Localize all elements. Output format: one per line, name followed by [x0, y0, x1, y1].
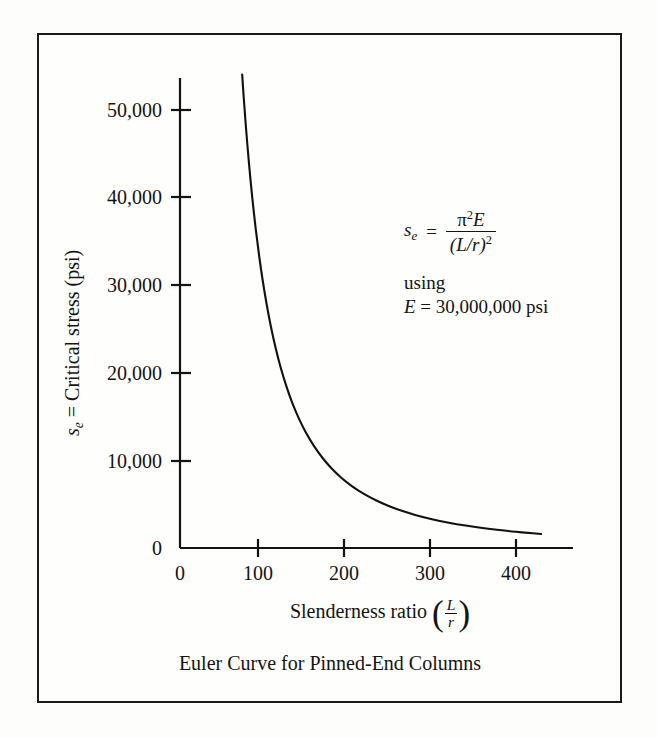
fraction-denominator-r: r	[446, 614, 456, 630]
y-axis-title-rest: = Critical stress (psi)	[61, 250, 83, 417]
using-label: using	[404, 272, 548, 294]
formula-denominator: (L/r)2	[446, 232, 496, 255]
formula-equals: =	[426, 221, 437, 243]
x-axis-title-ratio: ( L r )	[432, 597, 470, 630]
formula-line: se = π2E (L/r)2	[404, 208, 548, 255]
figure-caption: Euler Curve for Pinned-End Columns	[40, 652, 620, 675]
y-tick-label-10000: 10,000	[40, 450, 162, 473]
modulus-equals: =	[420, 296, 431, 317]
fraction-numerator-L: L	[445, 597, 458, 613]
formula-lhs: se	[404, 219, 417, 244]
x-tick-label-200: 200	[329, 562, 359, 585]
x-tick-label-100: 100	[243, 562, 273, 585]
y-tick-label-20000: 20,000	[40, 362, 162, 385]
figure-root: 50,000 40,000 30,000 20,000 10,000 0 0 1…	[0, 0, 657, 737]
y-axis-title: se = Critical stress (psi)	[61, 213, 87, 473]
modulus-value: 30,000,000 psi	[436, 296, 548, 317]
modulus-symbol: E	[404, 296, 416, 317]
x-axis-title: Slenderness ratio ( L r )	[180, 597, 580, 630]
modulus-line: E = 30,000,000 psi	[404, 296, 548, 318]
y-tick-label-30000: 30,000	[40, 274, 162, 297]
y-axis-title-subscript: e	[71, 422, 86, 428]
right-paren: )	[458, 599, 470, 629]
x-tick-label-400: 400	[501, 562, 531, 585]
y-tick-label-0: 0	[40, 537, 162, 560]
formula-fraction: π2E (L/r)2	[446, 208, 496, 255]
l-over-r-fraction: L r	[445, 597, 458, 630]
x-tick-label-300: 300	[415, 562, 445, 585]
x-axis-title-text: Slenderness ratio	[290, 600, 427, 622]
y-tick-label-40000: 40,000	[40, 186, 162, 209]
left-paren: (	[432, 599, 444, 629]
y-axis-title-symbol: s	[61, 428, 83, 436]
euler-formula-annotation: se = π2E (L/r)2 using E = 30,000,000 psi	[404, 208, 548, 318]
formula-numerator: π2E	[453, 208, 488, 231]
x-tick-label-0: 0	[175, 562, 185, 585]
y-tick-label-50000: 50,000	[40, 99, 162, 122]
